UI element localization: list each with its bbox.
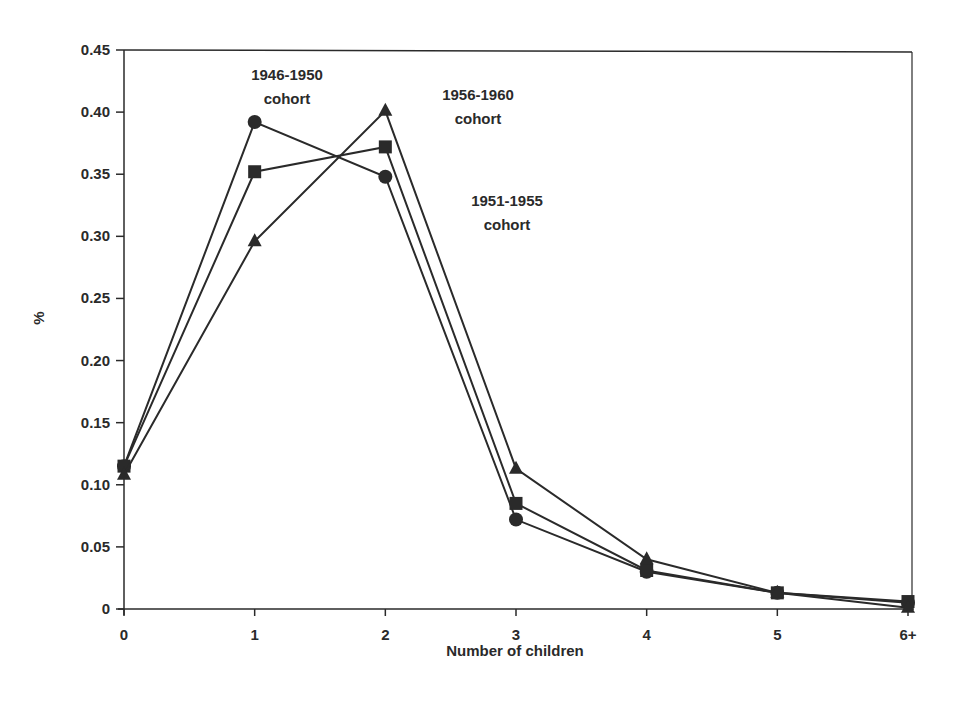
square-marker [640,564,653,577]
cohort-annotation-sub: cohort [484,216,531,233]
fertility-cohort-chart: 00.050.100.150.200.250.300.350.400.45 01… [0,0,972,723]
cohort-annotation-sub: cohort [455,110,502,127]
y-tick-label: 0.25 [81,289,110,306]
y-tick-label: 0.40 [81,103,110,120]
y-tick-label: 0.30 [81,227,110,244]
square-marker [248,165,261,178]
series-1951-1955-cohort [118,140,915,608]
cohort-annotation-sub: cohort [264,90,311,107]
triangle-marker [640,551,654,564]
square-marker [510,497,523,510]
x-tick-label: 6+ [899,626,916,643]
series-line [124,111,908,608]
y-tick-label: 0.20 [81,352,110,369]
x-tick-label: 0 [120,626,128,643]
y-axis-title: % [30,311,47,324]
series-group [117,103,915,613]
cohort-annotation: 1951-1955 [471,192,543,209]
x-tick-label: 4 [642,626,651,643]
x-tick-label: 1 [250,626,258,643]
circle-marker [509,513,523,527]
y-tick-label: 0.35 [81,165,110,182]
y-axis: 00.050.100.150.200.250.300.350.400.45 [81,41,124,617]
y-tick-label: 0.15 [81,414,110,431]
plot-frame [118,50,914,615]
x-axis: 0123456+ [120,609,917,643]
cohort-annotation: 1956-1960 [442,86,514,103]
triangle-marker [509,461,523,474]
y-tick-label: 0.45 [81,41,110,58]
x-tick-label: 3 [512,626,520,643]
triangle-marker [378,103,392,116]
circle-marker [248,115,262,129]
x-tick-label: 2 [381,626,389,643]
square-marker [379,140,392,153]
y-tick-label: 0 [102,600,110,617]
cohort-annotation: 1946-1950 [251,66,323,83]
y-tick-label: 0.05 [81,538,110,555]
circle-marker [378,170,392,184]
series-1946-1950-cohort [117,115,915,610]
x-axis-title: Number of children [446,642,584,659]
y-tick-label: 0.10 [81,476,110,493]
x-tick-label: 5 [773,626,781,643]
series-1956-1960-cohort [117,103,915,613]
